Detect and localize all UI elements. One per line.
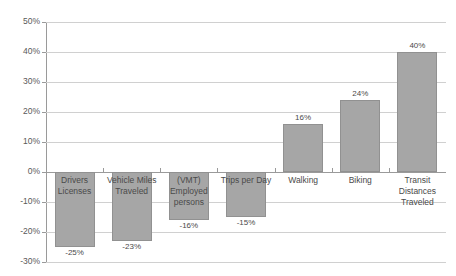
x-axis-category-label: Trips per Day	[219, 175, 272, 186]
bar-slot: 24%	[332, 22, 389, 262]
bar-slot: -15%	[217, 22, 274, 262]
bar-value-label: -23%	[122, 242, 141, 251]
y-axis-tick-label: 50%	[0, 17, 40, 26]
y-axis-tick	[42, 112, 46, 113]
y-axis-tick	[42, 52, 46, 53]
x-axis-category-label: Transit Distances Traveled	[391, 175, 444, 208]
bar[interactable]	[283, 124, 323, 172]
bar-value-label: 16%	[295, 113, 311, 122]
bar-chart: 50%40%30%20%10%0%-10%-20%-30% -25%-23%-1…	[0, 0, 456, 276]
x-axis-category-label: Biking	[334, 175, 387, 186]
y-axis-tick-label: 30%	[0, 77, 40, 86]
bar-value-label: 24%	[352, 89, 368, 98]
y-axis-tick	[42, 232, 46, 233]
bar-value-label: 40%	[409, 41, 425, 50]
y-axis-tick-label: -30%	[0, 257, 40, 266]
bar-value-label: -25%	[65, 248, 84, 257]
y-axis-tick	[42, 262, 46, 263]
y-axis-tick-label: -10%	[0, 197, 40, 206]
bar[interactable]	[397, 52, 437, 172]
x-axis-category-label: (VMT) Employed persons	[162, 175, 215, 208]
bar-slot: 40%	[389, 22, 446, 262]
y-axis-tick	[42, 22, 46, 23]
y-axis-tick	[42, 172, 46, 173]
x-axis-category-label: Drivers Licenses	[48, 175, 101, 197]
bar-slot: 16%	[275, 22, 332, 262]
y-axis-tick-label: 10%	[0, 137, 40, 146]
bar-slot: -23%	[103, 22, 160, 262]
x-axis-category-label: Vehicle Miles Traveled	[105, 175, 158, 197]
y-axis-tick-label: -20%	[0, 227, 40, 236]
y-axis-tick-label: 20%	[0, 107, 40, 116]
bar-value-label: -15%	[237, 218, 256, 227]
bar-slot: -16%	[160, 22, 217, 262]
x-axis-category-label: Walking	[277, 175, 330, 186]
y-axis-tick	[42, 142, 46, 143]
y-axis-tick-label: 40%	[0, 47, 40, 56]
plot-area: -25%-23%-16%-15%16%24%40% Drivers Licens…	[46, 22, 446, 262]
bar-value-label: -16%	[180, 221, 199, 230]
y-axis-labels: 50%40%30%20%10%0%-10%-20%-30%	[0, 0, 42, 276]
bar[interactable]	[340, 100, 380, 172]
gridline	[46, 262, 446, 263]
y-axis-tick-label: 0%	[0, 167, 40, 176]
bar-slot: -25%	[46, 22, 103, 262]
y-axis-tick	[42, 82, 46, 83]
y-axis-tick	[42, 202, 46, 203]
